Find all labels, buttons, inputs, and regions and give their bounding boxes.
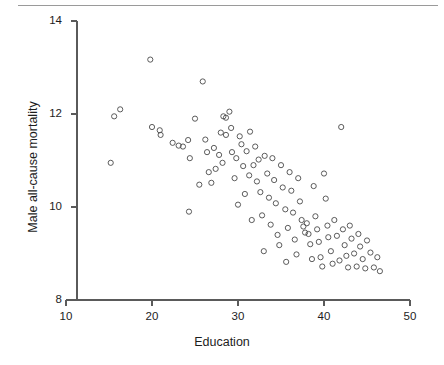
data-point xyxy=(112,114,117,119)
data-point xyxy=(244,149,249,154)
data-point xyxy=(284,259,289,264)
data-point xyxy=(259,213,264,218)
data-point xyxy=(290,210,295,215)
data-point xyxy=(258,190,263,195)
data-point xyxy=(328,249,333,254)
data-point xyxy=(239,142,244,147)
data-point xyxy=(232,176,237,181)
data-point xyxy=(200,79,205,84)
data-point xyxy=(371,265,376,270)
data-point xyxy=(237,134,242,139)
data-point xyxy=(186,137,191,142)
data-point xyxy=(251,163,256,168)
data-point xyxy=(275,232,280,237)
data-point xyxy=(211,145,216,150)
data-point xyxy=(149,124,154,129)
data-point xyxy=(186,209,191,214)
data-point xyxy=(242,191,247,196)
x-tick-label: 30 xyxy=(232,311,245,323)
data-point xyxy=(262,153,267,158)
data-point xyxy=(344,253,349,258)
data-point xyxy=(289,188,294,193)
data-point xyxy=(192,116,197,121)
data-point xyxy=(254,179,259,184)
data-point xyxy=(213,166,218,171)
data-point xyxy=(313,214,318,219)
x-tick-label: 50 xyxy=(404,311,417,323)
data-point xyxy=(266,195,271,200)
data-point xyxy=(227,109,232,114)
data-point xyxy=(330,261,335,266)
data-point xyxy=(334,233,339,238)
scatter-plot-figure: 8101214 1020304050 Education Male all-ca… xyxy=(0,0,444,365)
data-point xyxy=(318,255,323,260)
data-point xyxy=(261,249,266,254)
data-point xyxy=(268,222,273,227)
data-point xyxy=(360,256,365,261)
data-point xyxy=(349,236,354,241)
data-point xyxy=(304,221,309,226)
x-tick-label: 20 xyxy=(146,311,159,323)
data-point xyxy=(339,124,344,129)
x-tick-label: 10 xyxy=(60,311,73,323)
data-point xyxy=(308,242,313,247)
data-point xyxy=(118,107,123,112)
data-point xyxy=(272,177,277,182)
x-tick-label: 40 xyxy=(318,311,331,323)
data-point xyxy=(197,182,202,187)
data-point xyxy=(204,150,209,155)
data-point xyxy=(358,244,363,249)
data-point xyxy=(368,250,373,255)
data-point xyxy=(377,269,382,274)
data-point xyxy=(220,160,225,165)
data-point xyxy=(364,238,369,243)
data-point xyxy=(316,239,321,244)
data-point xyxy=(306,231,311,236)
data-point xyxy=(187,156,192,161)
data-point xyxy=(229,125,234,130)
data-point xyxy=(253,144,258,149)
data-point xyxy=(321,171,326,176)
data-point xyxy=(342,243,347,248)
data-point xyxy=(203,137,208,142)
data-point xyxy=(278,163,283,168)
data-point xyxy=(375,255,380,260)
data-point xyxy=(309,256,314,261)
data-point xyxy=(325,223,330,228)
data-point xyxy=(347,223,352,228)
data-point xyxy=(247,173,252,178)
data-point xyxy=(299,217,304,222)
data-point xyxy=(332,217,337,222)
data-point xyxy=(326,235,331,240)
data-point xyxy=(363,266,368,271)
data-point xyxy=(229,150,234,155)
data-point xyxy=(356,231,361,236)
data-point xyxy=(223,132,228,137)
data-point xyxy=(277,243,282,248)
data-point xyxy=(235,202,240,207)
data-point xyxy=(297,199,302,204)
data-point xyxy=(302,230,307,235)
data-point xyxy=(216,152,221,157)
data-point xyxy=(206,170,211,175)
data-point xyxy=(337,258,342,263)
data-point xyxy=(249,217,254,222)
data-point xyxy=(296,176,301,181)
data-point xyxy=(218,130,223,135)
data-point xyxy=(148,57,153,62)
data-point xyxy=(247,129,252,134)
data-point xyxy=(283,207,288,212)
data-point xyxy=(340,227,345,232)
data-point xyxy=(315,227,320,232)
y-tick-label: 8 xyxy=(32,294,62,306)
data-point xyxy=(354,264,359,269)
data-point xyxy=(292,237,297,242)
data-point xyxy=(108,160,113,165)
x-axis-title: Education xyxy=(0,335,444,349)
data-point xyxy=(294,252,299,257)
data-point xyxy=(209,180,214,185)
data-point xyxy=(273,201,278,206)
data-point xyxy=(170,140,175,145)
data-point xyxy=(241,163,246,168)
data-point xyxy=(323,196,328,201)
